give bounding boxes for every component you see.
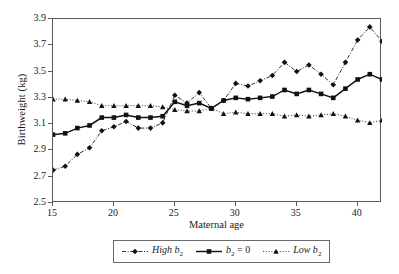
data-point [221, 111, 226, 116]
data-point [99, 128, 105, 134]
data-point [343, 60, 349, 66]
data-point [343, 86, 348, 91]
data-point [306, 62, 312, 68]
data-point [233, 96, 238, 101]
series-3 [53, 96, 382, 125]
data-point [173, 100, 178, 105]
data-point [185, 103, 190, 108]
legend-label: High b2 [152, 244, 183, 258]
data-point [63, 131, 68, 136]
data-point [355, 77, 360, 82]
y-tick-mark [48, 123, 52, 124]
x-tick-mark [52, 202, 53, 206]
data-point [87, 99, 92, 104]
y-tick-label: 3.1 [6, 118, 46, 128]
chart-figure: Birthweight (kg) 2.52.72.93.13.33.53.73.… [0, 0, 399, 274]
data-point [294, 92, 299, 97]
data-point [135, 125, 141, 131]
plot-area [52, 18, 381, 202]
data-point [233, 81, 239, 87]
data-point [136, 115, 141, 120]
data-point [148, 125, 154, 131]
data-point [75, 126, 80, 131]
data-point [53, 96, 56, 101]
y-tick-label: 3.5 [6, 66, 46, 76]
legend-entry-1[interactable]: High b2 [122, 244, 183, 258]
data-point [112, 115, 117, 120]
x-tick-mark [296, 202, 297, 206]
data-point [111, 124, 117, 130]
data-point [184, 108, 189, 113]
y-tick-mark [48, 18, 52, 19]
y-tick-label: 3.7 [6, 39, 46, 49]
data-point [160, 114, 165, 119]
data-point [160, 104, 165, 109]
data-point [99, 115, 104, 120]
legend-entry-3[interactable]: Low b2 [263, 244, 321, 258]
data-point [124, 113, 129, 118]
y-tick-label: 3.9 [6, 13, 46, 23]
y-tick-mark [48, 176, 52, 177]
data-point [172, 92, 178, 98]
data-point [196, 90, 202, 96]
data-point [355, 118, 360, 123]
data-point [246, 97, 251, 102]
data-point [221, 98, 226, 103]
x-tick-label: 35 [276, 208, 316, 218]
x-tick-label: 25 [154, 208, 194, 218]
data-point [258, 96, 263, 101]
data-point [270, 94, 275, 99]
data-point [53, 167, 56, 173]
data-point [148, 103, 153, 108]
data-point [123, 119, 129, 125]
legend-label: b2 = 0 [226, 244, 250, 258]
data-point [307, 88, 312, 93]
data-point [87, 145, 93, 151]
legend-label: Low b2 [293, 244, 321, 258]
legend-entry-2[interactable]: b2 = 0 [196, 244, 250, 258]
y-tick-label: 2.7 [6, 171, 46, 181]
legend-swatch-square-icon [196, 247, 222, 256]
x-tick-mark [235, 202, 236, 206]
y-tick-label: 2.9 [6, 144, 46, 154]
data-point [319, 92, 324, 97]
y-tick-mark [48, 71, 52, 72]
x-tick-mark [174, 202, 175, 206]
chart-svg [53, 19, 382, 203]
data-point [331, 111, 336, 116]
x-tick-mark [357, 202, 358, 206]
data-point [294, 69, 300, 75]
x-axis-title: Maternal age [52, 219, 381, 230]
x-tick-label: 15 [32, 208, 72, 218]
data-point [355, 37, 361, 43]
data-point [87, 123, 92, 128]
y-tick-mark [48, 97, 52, 98]
data-point [160, 120, 166, 126]
x-tick-label: 20 [93, 208, 133, 218]
data-point [197, 101, 202, 106]
data-point [62, 163, 68, 169]
data-point [294, 112, 299, 117]
x-tick-label: 30 [215, 208, 255, 218]
legend-swatch-diamond-icon [122, 247, 148, 256]
y-tick-label: 2.5 [6, 197, 46, 207]
y-tick-label: 3.3 [6, 92, 46, 102]
y-axis-title: Birthweight (kg) [16, 45, 27, 175]
data-point [368, 72, 373, 77]
data-point [53, 132, 55, 137]
data-point [380, 77, 382, 82]
data-point [282, 88, 287, 93]
x-tick-mark [113, 202, 114, 206]
data-point [233, 110, 238, 115]
data-point [331, 96, 336, 101]
legend-swatch-triangle-icon [263, 247, 289, 256]
data-point [379, 118, 382, 123]
data-point [257, 78, 263, 84]
y-tick-mark [48, 149, 52, 150]
y-tick-mark [48, 44, 52, 45]
chart-legend: High b2b2 = 0Low b2 [113, 240, 330, 263]
data-point [148, 115, 153, 120]
data-point [245, 83, 251, 89]
x-tick-label: 40 [337, 208, 377, 218]
data-point [270, 111, 275, 116]
